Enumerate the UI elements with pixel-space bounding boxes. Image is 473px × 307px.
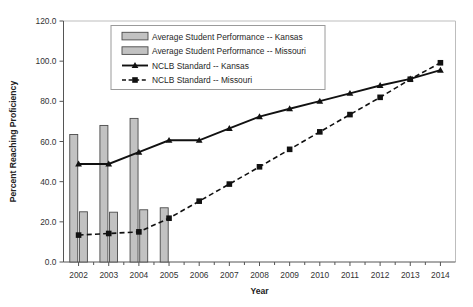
y-tick-label: 40.0 bbox=[40, 177, 57, 187]
x-tick-label: 2008 bbox=[250, 270, 269, 280]
bar-kansas bbox=[130, 118, 138, 262]
y-tick-label: 0.0 bbox=[45, 257, 57, 267]
marker-square bbox=[166, 215, 172, 221]
x-tick-label: 2006 bbox=[190, 270, 209, 280]
x-axis-title: Year bbox=[250, 286, 269, 296]
legend-swatch bbox=[122, 47, 148, 55]
legend-label-3: NCLB Standard -- Missouri bbox=[152, 75, 252, 85]
marker-square bbox=[317, 129, 323, 135]
x-tick-label: 2009 bbox=[280, 270, 299, 280]
marker-square bbox=[76, 232, 82, 238]
marker-triangle bbox=[437, 67, 444, 73]
x-tick-label: 2014 bbox=[431, 270, 450, 280]
chart-canvas: 0.020.040.060.080.0100.0120.020022003200… bbox=[0, 0, 473, 307]
x-tick-label: 2012 bbox=[371, 270, 390, 280]
y-tick-label: 80.0 bbox=[40, 96, 57, 106]
bar-missouri bbox=[110, 212, 118, 262]
marker-square bbox=[136, 229, 142, 235]
legend-label-0: Average Student Performance -- Kansas bbox=[152, 32, 303, 42]
legend-label-2: NCLB Standard -- Kansas bbox=[152, 61, 249, 71]
y-tick-label: 60.0 bbox=[40, 137, 57, 147]
x-tick-label: 2003 bbox=[99, 270, 118, 280]
chart-container: 0.020.040.060.080.0100.0120.020022003200… bbox=[0, 0, 473, 307]
x-tick-label: 2005 bbox=[160, 270, 179, 280]
marker-square bbox=[287, 147, 293, 153]
bar-kansas bbox=[70, 134, 78, 262]
marker-square bbox=[106, 231, 112, 237]
y-tick-label: 100.0 bbox=[36, 56, 57, 66]
x-tick-label: 2007 bbox=[220, 270, 239, 280]
y-tick-label: 120.0 bbox=[36, 16, 57, 26]
bar-kansas bbox=[100, 125, 108, 262]
x-tick-label: 2004 bbox=[130, 270, 149, 280]
marker-square bbox=[347, 112, 353, 118]
marker-square bbox=[227, 181, 233, 187]
marker-square bbox=[196, 198, 202, 204]
bar-missouri bbox=[140, 210, 148, 262]
x-tick-label: 2013 bbox=[401, 270, 420, 280]
legend-swatch bbox=[122, 32, 148, 40]
marker-square bbox=[407, 76, 413, 82]
marker-square bbox=[377, 95, 383, 101]
marker-square bbox=[438, 60, 444, 66]
legend-marker-square bbox=[132, 77, 138, 83]
y-axis-title: Percent Reaching Proficiency bbox=[8, 81, 18, 203]
x-tick-label: 2011 bbox=[341, 270, 359, 280]
x-tick-label: 2010 bbox=[310, 270, 329, 280]
marker-square bbox=[257, 164, 263, 170]
legend-label-1: Average Student Performance -- Missouri bbox=[152, 46, 306, 56]
y-tick-label: 20.0 bbox=[40, 217, 57, 227]
x-tick-label: 2002 bbox=[69, 270, 88, 280]
